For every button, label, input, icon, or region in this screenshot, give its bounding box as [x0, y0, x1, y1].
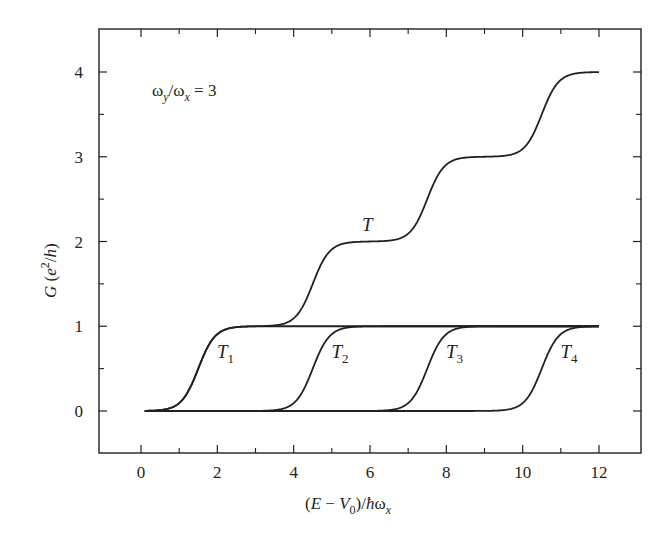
x-axis-label: (E − V0)/ħωx — [305, 494, 392, 517]
y-tick-label: 0 — [75, 402, 84, 421]
label-t1: T1 — [217, 341, 234, 366]
x-tick-label: 6 — [366, 463, 375, 482]
y-tick-label: 2 — [75, 233, 84, 252]
label-t: T — [362, 214, 374, 235]
x-tick-label: 4 — [289, 463, 298, 482]
ratio-annotation: ωy/ωx = 3 — [152, 81, 216, 104]
y-tick-label: 1 — [75, 317, 84, 336]
x-tick-label: 2 — [213, 463, 222, 482]
x-tick-label: 0 — [137, 463, 146, 482]
x-tick-label: 12 — [591, 463, 608, 482]
label-t2: T2 — [331, 341, 348, 366]
x-tick-label: 10 — [514, 463, 531, 482]
y-tick-label: 3 — [75, 148, 84, 167]
label-t3: T3 — [446, 341, 463, 366]
label-t4: T4 — [560, 341, 578, 366]
x-tick-label: 8 — [442, 463, 451, 482]
y-tick-label: 4 — [75, 63, 84, 82]
curve-labels: T1T2T3T4T — [217, 214, 578, 366]
tick-labels: 02468101201234 — [75, 63, 608, 482]
curves — [145, 72, 599, 411]
conductance-chart: 02468101201234 T1T2T3T4T ωy/ωx = 3 (E − … — [0, 0, 671, 549]
curve-t — [145, 72, 599, 411]
y-axis-label: G (e2/h) — [38, 243, 60, 298]
